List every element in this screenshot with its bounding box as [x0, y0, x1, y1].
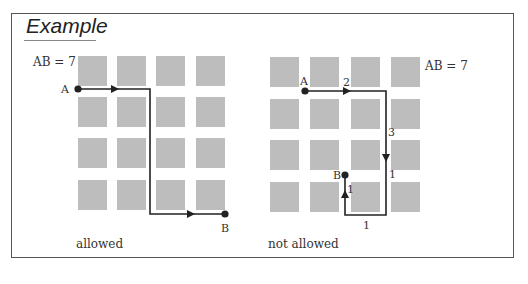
arrow-icon — [382, 154, 390, 162]
point-a-right — [301, 87, 308, 94]
segment-label: 2 — [343, 76, 350, 89]
distance-label-right: AB = 7 — [424, 59, 468, 73]
point-a-left — [74, 85, 81, 92]
left-grid — [78, 56, 225, 210]
point-b-right — [341, 171, 348, 178]
segment-label: 3 — [388, 126, 395, 139]
segment-label: 1 — [363, 219, 370, 232]
distance-label-left: AB = 7 — [32, 55, 76, 69]
point-b-left — [221, 210, 228, 217]
arrow-icon — [111, 85, 119, 93]
example-diagram: AB = 7 A B allowed AB = 7 A B 2 3 1 1 1 … — [0, 0, 528, 284]
caption-not-allowed: not allowed — [268, 237, 339, 251]
arrow-icon — [187, 210, 195, 218]
end-label-right: B — [333, 169, 341, 182]
end-label-left: B — [221, 222, 229, 235]
segment-label: 1 — [347, 183, 354, 196]
caption-allowed: allowed — [76, 237, 123, 251]
start-label-right: A — [299, 75, 309, 88]
start-label-left: A — [60, 83, 70, 96]
segment-label: 1 — [389, 168, 396, 181]
